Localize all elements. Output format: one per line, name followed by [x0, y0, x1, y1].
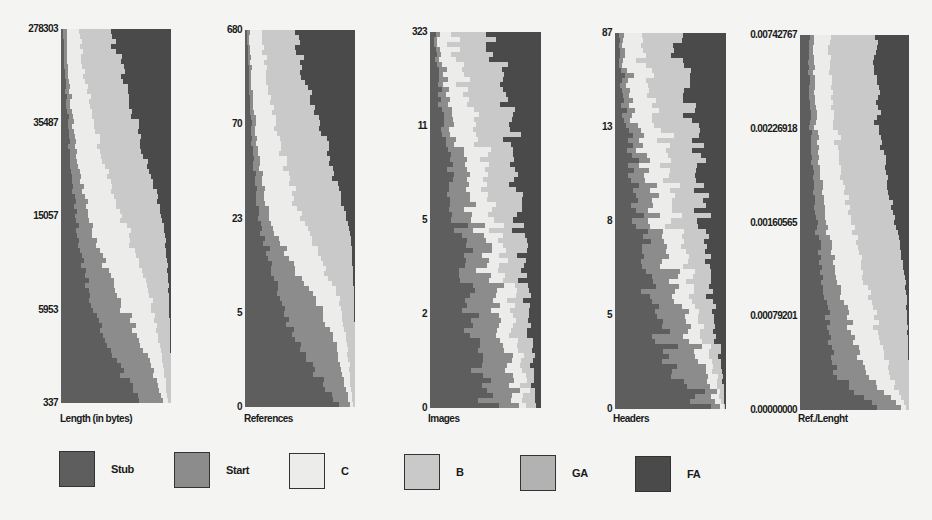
bar-segment-c	[519, 403, 526, 408]
plot-images	[430, 32, 541, 408]
bar-segment-b	[906, 405, 909, 410]
legend-item-ga: GA	[520, 455, 588, 491]
ytick-length: 15057	[33, 210, 58, 221]
legend-label-c: C	[341, 465, 349, 477]
ytick-ref-length: 0.00160565	[750, 217, 797, 228]
ytick-references: 680	[227, 24, 242, 35]
ytick-length: 35487	[33, 117, 58, 128]
ytick-references: 0	[237, 401, 242, 412]
bar-segment-start	[877, 405, 901, 410]
ytick-ref-length: 0.00079201	[750, 310, 797, 321]
legend-item-stub: Stub	[59, 451, 134, 487]
ytick-references: 5	[237, 307, 242, 318]
legend-item-fa: FA	[635, 456, 700, 492]
legend-label-ga: GA	[572, 467, 588, 479]
legend-label-fa: FA	[687, 468, 700, 480]
bar-segment-stub	[61, 398, 139, 403]
ytick-headers: 5	[607, 309, 612, 320]
bar-segment-stub	[800, 405, 877, 410]
legend-swatch-c	[289, 453, 325, 489]
ytick-length: 337	[43, 397, 58, 408]
legend-label-b: B	[456, 466, 464, 478]
bar-row	[430, 403, 541, 408]
legend-item-b: B	[404, 454, 464, 490]
plot-ref-length	[800, 35, 909, 410]
bar-segment-fa	[725, 404, 726, 409]
xlabel-references: References	[244, 413, 293, 424]
legend-swatch-fa	[635, 456, 671, 492]
bar-segment-b	[168, 398, 171, 403]
ytick-images: 323	[412, 26, 427, 37]
bar-segment-b	[526, 403, 536, 408]
ytick-headers: 13	[602, 121, 612, 132]
plot-headers	[615, 33, 726, 409]
bar-segment-fa	[536, 403, 541, 408]
bar-segment-stub	[430, 403, 499, 408]
ytick-headers: 87	[602, 27, 612, 38]
legend-label-stub: Stub	[111, 463, 134, 475]
ytick-headers: 8	[607, 215, 612, 226]
ytick-references: 23	[232, 213, 242, 224]
legend-item-c: C	[289, 453, 349, 489]
bar-segment-b	[353, 402, 355, 407]
bar-row	[800, 405, 909, 410]
legend-swatch-ga	[520, 455, 556, 491]
ytick-length: 278303	[28, 23, 58, 34]
plot-length	[61, 29, 171, 403]
ytick-ref-length: 0.00742767	[750, 29, 797, 40]
ytick-images: 5	[422, 214, 427, 225]
bar-row	[61, 398, 171, 403]
ytick-images: 2	[422, 308, 427, 319]
ytick-references: 70	[232, 118, 242, 129]
bar-segment-stub	[245, 402, 339, 407]
ytick-images: 11	[418, 120, 427, 131]
bar-segment-start	[339, 402, 349, 407]
ytick-ref-length: 0.00226918	[750, 123, 797, 134]
legend-swatch-start	[174, 452, 210, 488]
ytick-headers: 0	[607, 403, 612, 414]
bar-row	[615, 404, 726, 409]
bar-segment-start	[711, 404, 720, 409]
legend-swatch-b	[404, 454, 440, 490]
ytick-length: 5953	[38, 304, 58, 315]
bar-segment-start	[139, 398, 163, 403]
bar-segment-stub	[615, 404, 711, 409]
legend-item-start: Start	[174, 452, 249, 488]
xlabel-headers: Headers	[613, 413, 649, 424]
bar-segment-start	[499, 403, 520, 408]
ytick-ref-length: 0.00000000	[750, 404, 797, 415]
legend-swatch-stub	[59, 451, 95, 487]
xlabel-ref-length: Ref./Lenght	[798, 413, 848, 424]
bar-row	[245, 402, 355, 407]
plot-references	[245, 30, 355, 407]
xlabel-length: Length (in bytes)	[60, 413, 132, 424]
ytick-images: 0	[422, 402, 427, 413]
legend-label-start: Start	[226, 464, 249, 476]
xlabel-images: Images	[428, 413, 459, 424]
